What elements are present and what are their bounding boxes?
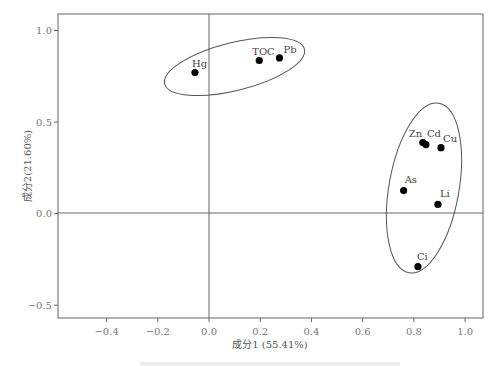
x-tick-label: 0.0 [201,326,217,337]
x-tick-label: 0.2 [252,326,268,337]
point-label-cu: Cu [443,133,458,144]
cluster-ellipse-1 [159,26,310,107]
point-label-toc: TOC [252,46,275,57]
data-point-toc [256,57,263,64]
data-point-cu [437,144,444,151]
point-label-hg: Hg [192,58,208,69]
pca-loading-plot: −0.4−0.20.00.20.40.60.81.0 1.00.50.0−0.5… [0,0,499,366]
x-axis-label: 成分1 (55.41%) [232,339,308,350]
data-point-li [434,201,441,208]
x-tick-label: 0.6 [355,326,371,337]
x-tick-label: −0.4 [94,326,118,337]
data-point-pb [276,54,283,61]
x-tick-label: 0.4 [304,326,320,337]
point-label-as: As [404,174,417,185]
y-tick-label: 0.5 [36,117,52,128]
point-label-li: Li [440,188,450,199]
data-points: HgTOCPbZnCdCuAsLiCi [191,44,457,270]
plot-frame [58,14,483,318]
data-point-hg [191,69,198,76]
x-tick-label: 0.8 [406,326,422,337]
x-axis-ticks: −0.4−0.20.00.20.40.60.81.0 [94,318,473,337]
x-tick-label: −0.2 [146,326,170,337]
point-label-ci: Ci [417,251,428,262]
y-tick-label: 1.0 [36,25,52,36]
y-tick-label: 0.0 [36,208,52,219]
y-tick-label: −0.5 [28,300,52,311]
point-label-pb: Pb [283,44,296,55]
caption-remnant [140,362,400,366]
point-label-zn: Zn [409,128,423,139]
data-point-as [400,187,407,194]
x-tick-label: 1.0 [457,326,473,337]
point-label-cd: Cd [427,128,442,139]
data-point-cd [422,141,429,148]
y-axis-label: 成分2(21.60%) [22,130,33,202]
data-point-ci [414,263,421,270]
